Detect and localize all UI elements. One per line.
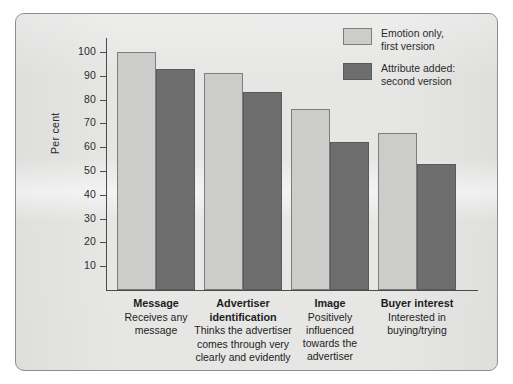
x-axis-category-label: AdvertiseridentificationThinks the adver… xyxy=(183,297,303,364)
bar xyxy=(204,73,243,290)
bar xyxy=(243,92,282,290)
bar xyxy=(291,109,330,290)
legend-item: Attribute added: second version xyxy=(343,62,493,87)
x-axis-category-label: ImagePositivelyinfluencedtowards theadve… xyxy=(286,297,374,364)
bar xyxy=(417,164,456,290)
bar xyxy=(117,52,156,290)
legend-item: Emotion only, first version xyxy=(343,27,493,52)
category-title: Image xyxy=(286,297,374,310)
legend-label: Attribute added: second version xyxy=(381,62,455,87)
category-title: Advertiser xyxy=(183,297,303,310)
bar xyxy=(156,69,195,290)
chart-legend: Emotion only, first versionAttribute add… xyxy=(343,27,493,97)
chart-figure-panel: 100908070605040302010 Per cent MessageRe… xyxy=(15,13,498,371)
category-description: Positivelyinfluencedtowards theadvertise… xyxy=(286,311,374,364)
x-axis-category-label: Buyer interestInterested inbuying/trying xyxy=(367,297,467,337)
bar xyxy=(330,142,369,290)
bar xyxy=(378,133,417,290)
legend-swatch xyxy=(343,63,372,80)
legend-label: Emotion only, first version xyxy=(381,27,444,52)
category-description: Interested inbuying/trying xyxy=(367,311,467,337)
category-title-line2: identification xyxy=(183,311,303,324)
plot-area: 100908070605040302010 Per cent MessageRe… xyxy=(16,14,498,371)
legend-swatch xyxy=(343,28,372,45)
category-title: Buyer interest xyxy=(367,297,467,310)
category-description: identificationThinks the advertisercomes… xyxy=(183,311,303,364)
